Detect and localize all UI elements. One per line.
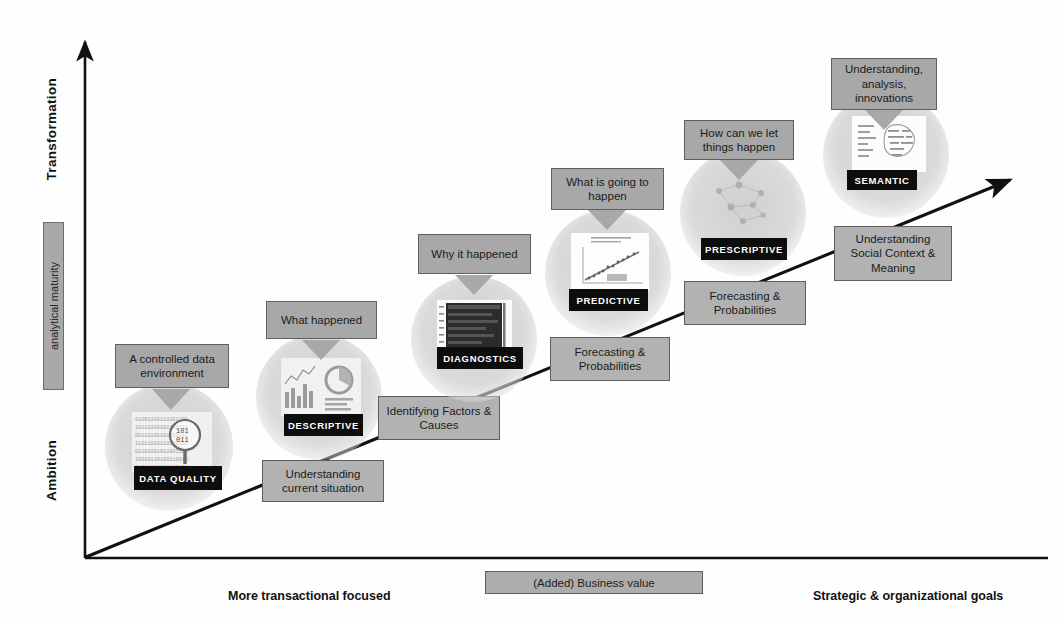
stage-callout-notch-predictive	[588, 210, 626, 230]
stage-callout-notch-descriptive	[302, 340, 340, 360]
business-value-legend: (Added) Business value	[485, 571, 703, 594]
x-axis-right-label: Strategic & organizational goals	[813, 589, 1003, 603]
svg-text:101: 101	[176, 427, 189, 435]
stage-callout-data-quality: A controlled data environment	[115, 344, 229, 388]
thumbnail-network-nodes-image	[705, 175, 781, 233]
y-axis-maturity-bar: analytical maturity	[43, 222, 64, 390]
stage-chip-diagnostics: DIAGNOSTICS	[437, 347, 523, 369]
stage-callout-predictive: What is going to happen	[551, 168, 664, 210]
thumbnail-dashboard-charts-image	[281, 358, 361, 416]
value-box-identifying-factors-causes: Identifying Factors & Causes	[378, 396, 500, 440]
stage-callout-notch-prescriptive	[720, 160, 758, 180]
y-axis-bottom-label: Ambition	[44, 440, 59, 501]
stage-chip-data-quality: DATA QUALITY	[134, 466, 222, 490]
x-axis-left-label: More transactional focused	[228, 589, 391, 603]
stage-callout-notch-semantic	[865, 110, 903, 130]
stage-callout-descriptive: What happened	[266, 301, 377, 339]
stage-callout-diagnostics: Why it happened	[418, 234, 531, 274]
thumbnail-scatter-regression-image	[571, 233, 649, 291]
stage-chip-descriptive: DESCRIPTIVE	[284, 414, 363, 436]
stage-callout-semantic: Understanding, analysis, innovations	[831, 58, 937, 110]
svg-text:011: 011	[176, 436, 189, 444]
thumbnail-binary-digits-magnifier-image: 01001100110101101 10110100101100110 0011…	[132, 412, 212, 472]
value-box-forecasting-probabilities-2: Forecasting & Probabilities	[684, 281, 806, 325]
analytics-maturity-diagram: Transformation analytical maturity Ambit…	[0, 0, 1058, 623]
stage-callout-notch-data-quality	[152, 389, 190, 410]
value-box-forecasting-probabilities-1: Forecasting & Probabilities	[550, 337, 670, 381]
y-axis-top-label: Transformation	[44, 78, 59, 180]
value-box-understanding-social-context: Understanding Social Context & Meaning	[834, 226, 952, 281]
svg-text:10010110100110010: 10010110100110010	[135, 457, 188, 463]
stage-chip-semantic: SEMANTIC	[847, 170, 917, 190]
y-axis-maturity-bar-label: analytical maturity	[48, 262, 60, 350]
stage-chip-prescriptive: PRESCRIPTIVE	[701, 238, 787, 260]
value-box-understanding-current-situation: Understanding current situation	[262, 460, 384, 502]
stage-chip-predictive: PREDICTIVE	[569, 289, 648, 311]
stage-callout-prescriptive: How can we let things happen	[684, 120, 794, 160]
stage-callout-notch-diagnostics	[455, 275, 493, 295]
